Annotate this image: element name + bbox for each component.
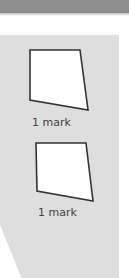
- mark-label-2: 1 mark: [38, 206, 77, 219]
- mark-label-1: 1 mark: [32, 116, 71, 129]
- quadrilateral-shape-1: [28, 48, 92, 112]
- header-band-shadow: [0, 13, 129, 16]
- header-band: [0, 0, 129, 13]
- quadrilateral-shape-2: [34, 141, 98, 205]
